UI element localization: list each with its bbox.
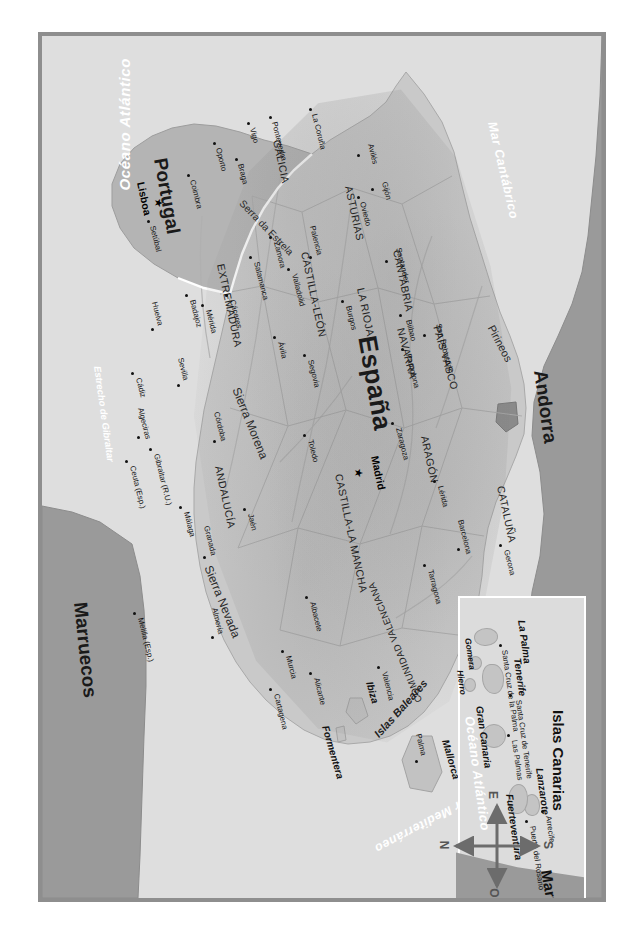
city-dot	[201, 304, 204, 307]
compass-rose: E O N S	[432, 790, 562, 900]
city-dot	[269, 116, 272, 119]
city-dot	[273, 336, 276, 339]
inset-island-label-hierro: Hierro	[456, 669, 468, 695]
city-dot	[303, 354, 306, 357]
city-dot	[309, 108, 312, 111]
inset-island-label-gomera: Gomera	[464, 637, 477, 670]
city-dot	[499, 644, 502, 647]
city-dot	[177, 384, 180, 387]
city-dot	[423, 564, 426, 567]
city-dot	[357, 154, 360, 157]
city-dot	[509, 694, 512, 697]
city-dot	[185, 294, 188, 297]
city-dot	[179, 506, 182, 509]
sea-label-atlantico: Océano Atlántico	[117, 58, 132, 190]
city-dot	[357, 196, 360, 199]
city-dot	[225, 294, 228, 297]
la-palma-island	[474, 628, 498, 646]
city-dot	[371, 188, 374, 191]
city-dot	[213, 142, 216, 145]
compass-label-east: E	[486, 791, 500, 799]
city-dot	[303, 434, 306, 437]
map-canvas[interactable]: Mar Cantábrico Mar Mediterráneo Océano A…	[42, 36, 602, 898]
city-dot	[341, 300, 344, 303]
city-dot	[203, 556, 206, 559]
city-dot	[457, 548, 460, 551]
city-dot	[269, 236, 272, 239]
city-dot	[305, 596, 308, 599]
map-frame: Mar Cantábrico Mar Mediterráneo Océano A…	[38, 32, 606, 902]
city-dot	[249, 256, 252, 259]
city-dot	[415, 760, 418, 763]
city-dot	[433, 480, 436, 483]
city-dot	[507, 734, 510, 737]
map-page: Mar Cantábrico Mar Mediterráneo Océano A…	[0, 0, 635, 944]
city-dot	[243, 508, 246, 511]
city-dot	[131, 372, 134, 375]
city-dot	[187, 174, 190, 177]
city-dot	[401, 348, 404, 351]
tenerife-island	[482, 664, 504, 694]
city-dot	[149, 448, 152, 451]
map-rotation-wrapper: Mar Cantábrico Mar Mediterráneo Océano A…	[42, 36, 602, 898]
city-dot	[309, 672, 312, 675]
city-dot	[151, 328, 154, 331]
city-dot	[133, 612, 136, 615]
capital-marker-lisboa: ★	[153, 198, 164, 208]
morocco-landmass	[42, 506, 146, 898]
city-dot	[211, 636, 214, 639]
city-dot	[377, 666, 380, 669]
city-dot	[391, 422, 394, 425]
compass-label-west: O	[487, 888, 501, 897]
city-dot	[499, 544, 502, 547]
compass-label-north: N	[437, 841, 451, 850]
city-dot	[235, 158, 238, 161]
city-dot	[423, 334, 426, 337]
city-dot	[125, 460, 128, 463]
city-dot	[309, 256, 312, 259]
capital-marker-madrid: ★	[353, 468, 364, 478]
city-dot	[213, 440, 216, 443]
city-dot	[385, 260, 388, 263]
city-dot	[247, 122, 250, 125]
city-dot	[147, 220, 150, 223]
city-dot	[281, 650, 284, 653]
city-dot	[399, 314, 402, 317]
compass-label-south: S	[541, 841, 555, 849]
city-dot	[287, 268, 290, 271]
city-dot	[137, 436, 140, 439]
city-dot	[269, 688, 272, 691]
